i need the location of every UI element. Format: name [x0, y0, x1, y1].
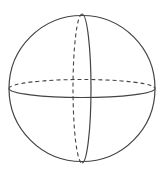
equator-back-dashed: [9, 80, 155, 89]
sphere-diagram: [0, 0, 163, 173]
meridian-back-dashed: [73, 14, 82, 163]
sphere-outline: [9, 16, 155, 162]
meridian-front-solid: [82, 14, 91, 163]
equator-front-solid: [9, 89, 155, 98]
